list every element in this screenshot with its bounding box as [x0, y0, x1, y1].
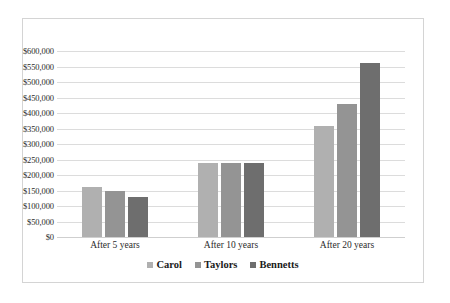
bar-group: [198, 51, 264, 237]
y-tick-label: $600,000: [0, 46, 54, 56]
legend-item-carol[interactable]: Carol: [147, 259, 181, 270]
bar-bennetts-0[interactable]: [128, 197, 148, 237]
bar-group: [82, 51, 148, 237]
legend-item-bennetts[interactable]: Bennetts: [250, 259, 298, 270]
legend-label: Bennetts: [259, 259, 298, 270]
legend-item-taylors[interactable]: Taylors: [195, 259, 237, 270]
bar-carol-0[interactable]: [82, 187, 102, 237]
x-axis: After 5 yearsAfter 10 yearsAfter 20 year…: [57, 240, 405, 256]
y-tick-label: $500,000: [0, 77, 54, 87]
bar-carol-2[interactable]: [314, 126, 334, 237]
legend-swatch-icon: [195, 262, 201, 268]
bar-bennetts-2[interactable]: [360, 63, 380, 237]
y-axis: $600,000$550,000$500,000$450,000$400,000…: [0, 45, 54, 245]
y-tick-label: $550,000: [0, 62, 54, 72]
y-tick-label: $350,000: [0, 124, 54, 134]
bar-taylors-2[interactable]: [337, 104, 357, 237]
chart-legend: CarolTaylorsBennetts: [22, 259, 424, 270]
x-tick-label: After 10 years: [204, 240, 258, 250]
legend-label: Carol: [156, 259, 181, 270]
y-tick-label: $200,000: [0, 170, 54, 180]
x-tick-label: After 5 years: [90, 240, 140, 250]
plot-area: [57, 51, 405, 237]
bar-carol-1[interactable]: [198, 163, 218, 237]
y-tick-label: $300,000: [0, 139, 54, 149]
y-tick-label: $450,000: [0, 93, 54, 103]
y-tick-label: $400,000: [0, 108, 54, 118]
x-tick-label: After 20 years: [320, 240, 374, 250]
bar-bennetts-1[interactable]: [244, 163, 264, 237]
y-tick-label: $150,000: [0, 186, 54, 196]
y-tick-label: $0: [0, 232, 54, 242]
y-tick-label: $50,000: [0, 217, 54, 227]
bar-group: [314, 51, 380, 237]
legend-swatch-icon: [250, 262, 256, 268]
legend-label: Taylors: [204, 259, 237, 270]
y-tick-label: $250,000: [0, 155, 54, 165]
bar-taylors-0[interactable]: [105, 191, 125, 238]
legend-swatch-icon: [147, 262, 153, 268]
bar-taylors-1[interactable]: [221, 163, 241, 237]
y-tick-label: $100,000: [0, 201, 54, 211]
axis-baseline: [57, 237, 405, 238]
